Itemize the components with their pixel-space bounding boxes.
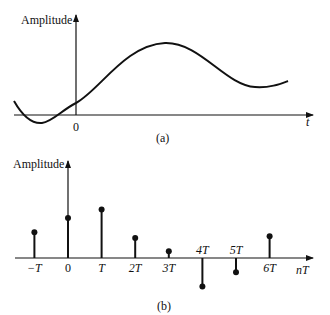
a-caption: (a) bbox=[156, 131, 169, 145]
sample-point bbox=[65, 215, 71, 221]
b-x-axis-label: nT bbox=[296, 263, 310, 277]
sample-point bbox=[267, 233, 273, 239]
sample-point bbox=[132, 235, 138, 241]
sample-point bbox=[99, 207, 105, 213]
figure-a: Amplitude 0 t (a) bbox=[14, 13, 313, 145]
sample-tick-label: 6T bbox=[263, 261, 277, 275]
sample-tick-label: T bbox=[98, 261, 106, 275]
a-x-axis-label: t bbox=[306, 115, 310, 129]
sample-tick-label: 3T bbox=[161, 261, 176, 275]
sample-point bbox=[31, 229, 37, 235]
a-origin-label: 0 bbox=[73, 120, 79, 134]
sample-tick-label: 4T bbox=[196, 243, 210, 257]
sample-tick-label: 0 bbox=[65, 261, 71, 275]
b-y-axis-label: Amplitude bbox=[13, 157, 64, 171]
sample-tick-label: 5T bbox=[230, 243, 244, 257]
figure: Amplitude 0 t (a) Amplitude nT (b) −T0T2… bbox=[0, 0, 330, 315]
a-signal-curve bbox=[14, 43, 288, 123]
figure-b: Amplitude nT (b) −T0T2T3T4T5T6T bbox=[13, 157, 313, 313]
sample-point bbox=[233, 269, 239, 275]
sample-tick-label: 2T bbox=[129, 261, 143, 275]
sample-point bbox=[199, 284, 205, 290]
b-caption: (b) bbox=[157, 299, 171, 313]
a-y-axis-label: Amplitude bbox=[21, 13, 72, 27]
sample-point bbox=[166, 248, 172, 254]
sample-tick-label: −T bbox=[27, 261, 43, 275]
